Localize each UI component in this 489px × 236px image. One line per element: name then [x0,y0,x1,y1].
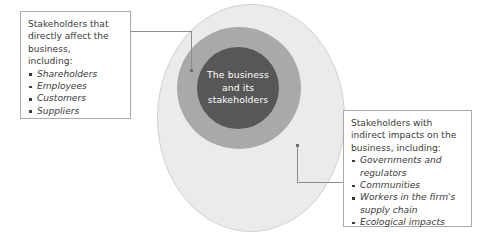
list-item: Customers [28,92,124,104]
list-item: Governments and regulators [351,154,465,179]
right-callout-list: Governments and regulators Communities W… [351,154,465,228]
callout-direct-stakeholders: Stakeholders that directly affect the bu… [20,11,131,119]
left-callout-list: Shareholders Employees Customers Supplie… [28,68,124,118]
callout-indirect-stakeholders: Stakeholders with indirect impacts on th… [343,110,472,227]
list-item: Shareholders [28,68,124,80]
inner-circle-business: The business and its stakeholders [197,47,279,129]
left-callout-intro: Stakeholders that directly affect the bu… [28,18,124,68]
left-connector-vertical [191,31,192,70]
center-label: The business and its stakeholders [207,69,269,107]
list-item: Employees [28,80,124,92]
right-connector-horizontal [297,182,343,183]
list-item: Workers in the firm's supply chain [351,191,465,216]
left-connector-endpoint-dot [190,69,193,72]
list-item: Suppliers [28,105,124,117]
right-connector-vertical [297,146,298,183]
right-callout-intro: Stakeholders with indirect impacts on th… [351,117,465,154]
list-item: Communities [351,179,465,191]
stakeholder-diagram: The business and its stakeholders Stakeh… [0,0,489,236]
list-item: Ecological impacts [351,216,465,228]
left-connector-horizontal [131,31,192,32]
